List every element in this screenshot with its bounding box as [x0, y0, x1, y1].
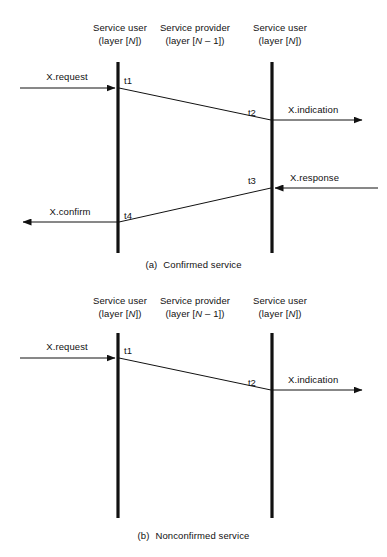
figure-caption-text: Nonconfirmed service	[156, 530, 250, 541]
timestamp-label-t2: t2	[248, 107, 256, 118]
timestamp-label-t1: t1	[124, 345, 132, 356]
figure-caption-text: Confirmed service	[163, 259, 241, 270]
figure-caption-index: (b)	[138, 530, 150, 541]
label-x-indication: X.indication	[288, 104, 338, 115]
diagonal-response-to-confirm	[119, 188, 271, 222]
figure-caption-index: (a)	[145, 259, 157, 270]
label-x-indication: X.indication	[288, 374, 338, 385]
label-x-confirm: X.confirm	[49, 206, 90, 217]
figure-caption-a: (a)Confirmed service	[0, 259, 387, 270]
timestamp-label-t4: t4	[124, 210, 132, 221]
label-x-request: X.request	[46, 71, 88, 82]
figure-caption-b: (b)Nonconfirmed service	[0, 530, 387, 541]
label-x-response: X.response	[290, 172, 339, 183]
timestamp-label-t1: t1	[124, 75, 132, 86]
sequence-diagram-confirmed: X.request t1 t2 X.indication X.response …	[0, 0, 387, 280]
sequence-diagram-nonconfirmed: X.request t1 t2 X.indication	[0, 280, 387, 557]
figure-nonconfirmed-service: Service user (layer [N]) Service provide…	[0, 280, 387, 557]
figure-confirmed-service: Service user (layer [N]) Service provide…	[0, 0, 387, 280]
label-x-request: X.request	[46, 341, 88, 352]
timestamp-label-t3: t3	[248, 175, 256, 186]
timestamp-label-t2: t2	[248, 377, 256, 388]
